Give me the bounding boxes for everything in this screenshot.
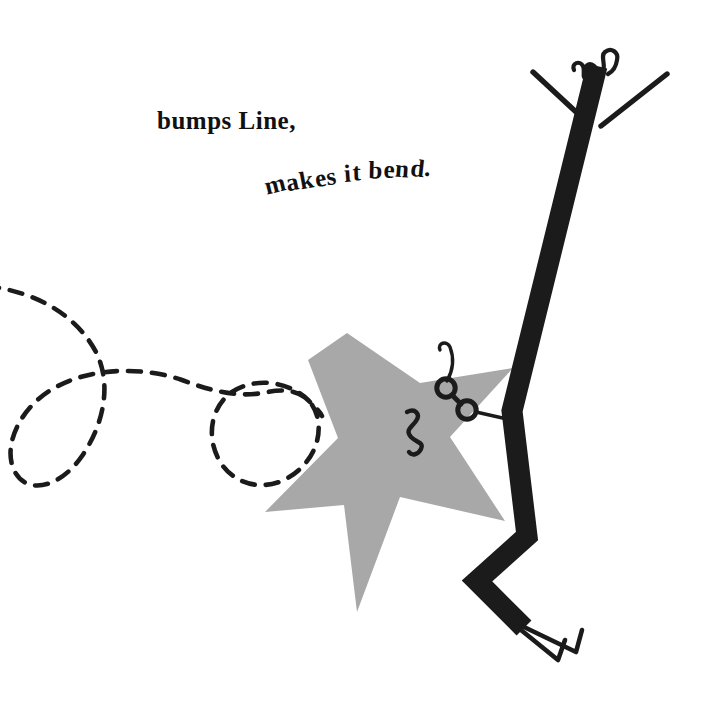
caption-line-2: makes it bend. — [268, 170, 430, 198]
caption-line-2-glyph: b — [368, 156, 383, 184]
illustration-artwork — [0, 0, 724, 713]
caption-line-1: bumps Line, — [157, 107, 296, 135]
caption-line-2-glyph: t — [352, 158, 362, 186]
illustration-canvas: bumps Line, makes it bend. — [0, 0, 724, 713]
